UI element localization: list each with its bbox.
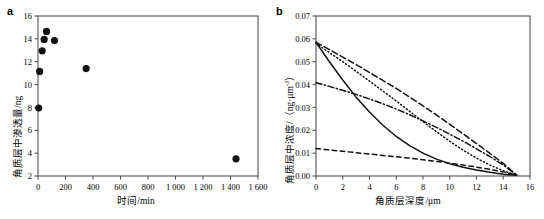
curve-dotted-curve	[316, 43, 517, 175]
y-tick-label: 2	[28, 171, 32, 181]
panel-b-y-axis-title: 角质层中浓度/（ng·μm-3）	[283, 71, 296, 184]
y-tick-label: 0.03	[295, 103, 310, 113]
x-tick-label: 1 600	[248, 182, 267, 192]
panel-b: b 02468101214160.000.010.020.030.040.050…	[272, 0, 544, 219]
panel-a-x-axis-title: 时间/min	[0, 196, 272, 206]
y-tick-label: 0.04	[295, 80, 311, 90]
y-tick-label: 8	[28, 103, 32, 113]
scatter-point	[35, 104, 42, 111]
panel-a-y-axis-title: 角质层中渗透量/ng	[13, 96, 23, 178]
x-tick-label: 600	[114, 182, 127, 192]
scatter-point	[51, 37, 58, 44]
x-tick-label: 12	[472, 182, 481, 192]
x-tick-label: 1 000	[166, 182, 185, 192]
curve-dash-dot-curve	[316, 83, 517, 175]
y-tick-label: 0.06	[295, 34, 310, 44]
x-tick-label: 16	[526, 182, 535, 192]
x-tick-label: 6	[394, 182, 398, 192]
y-tick-label: 0.02	[295, 125, 310, 135]
y-tick-label: 0.00	[295, 171, 310, 181]
x-tick-label: 1 200	[193, 182, 212, 192]
x-tick-label: 800	[142, 182, 155, 192]
y-tick-label: 12	[24, 57, 33, 67]
scatter-point	[39, 47, 46, 54]
y-tick-label: 14	[24, 34, 33, 44]
panel-b-x-axis-title: 角质层深度/μm	[272, 196, 544, 206]
x-tick-label: 14	[499, 182, 508, 192]
y-tick-label: 0.07	[295, 11, 310, 21]
x-tick-label: 0	[36, 182, 40, 192]
figure-container: a 02004006008001 0001 2001 4001 60024681…	[0, 0, 544, 219]
scatter-point	[232, 155, 239, 162]
y-tick-label: 16	[24, 11, 33, 21]
panel-b-plot: 02468101214160.000.010.020.030.040.050.0…	[272, 0, 544, 219]
x-tick-label: 4	[367, 182, 372, 192]
x-tick-label: 200	[59, 182, 72, 192]
scatter-point	[36, 68, 43, 75]
y-tick-label: 10	[24, 80, 33, 90]
panel-a-plot: 02004006008001 0001 2001 4001 6002468101…	[0, 0, 272, 219]
x-tick-label: 0	[314, 182, 318, 192]
panel-a: a 02004006008001 0001 2001 4001 60024681…	[0, 0, 272, 219]
scatter-point	[43, 28, 50, 35]
x-tick-label: 400	[87, 182, 100, 192]
x-tick-label: 1 400	[221, 182, 240, 192]
scatter-point	[83, 65, 90, 72]
scatter-point	[41, 36, 48, 43]
y-tick-label: 4	[28, 148, 33, 158]
y-tick-label: 0.05	[295, 57, 310, 67]
x-tick-label: 10	[446, 182, 455, 192]
x-tick-label: 2	[341, 182, 345, 192]
y-tick-label: 6	[28, 125, 32, 135]
x-tick-label: 8	[421, 182, 425, 192]
y-tick-label: 0.01	[295, 148, 310, 158]
